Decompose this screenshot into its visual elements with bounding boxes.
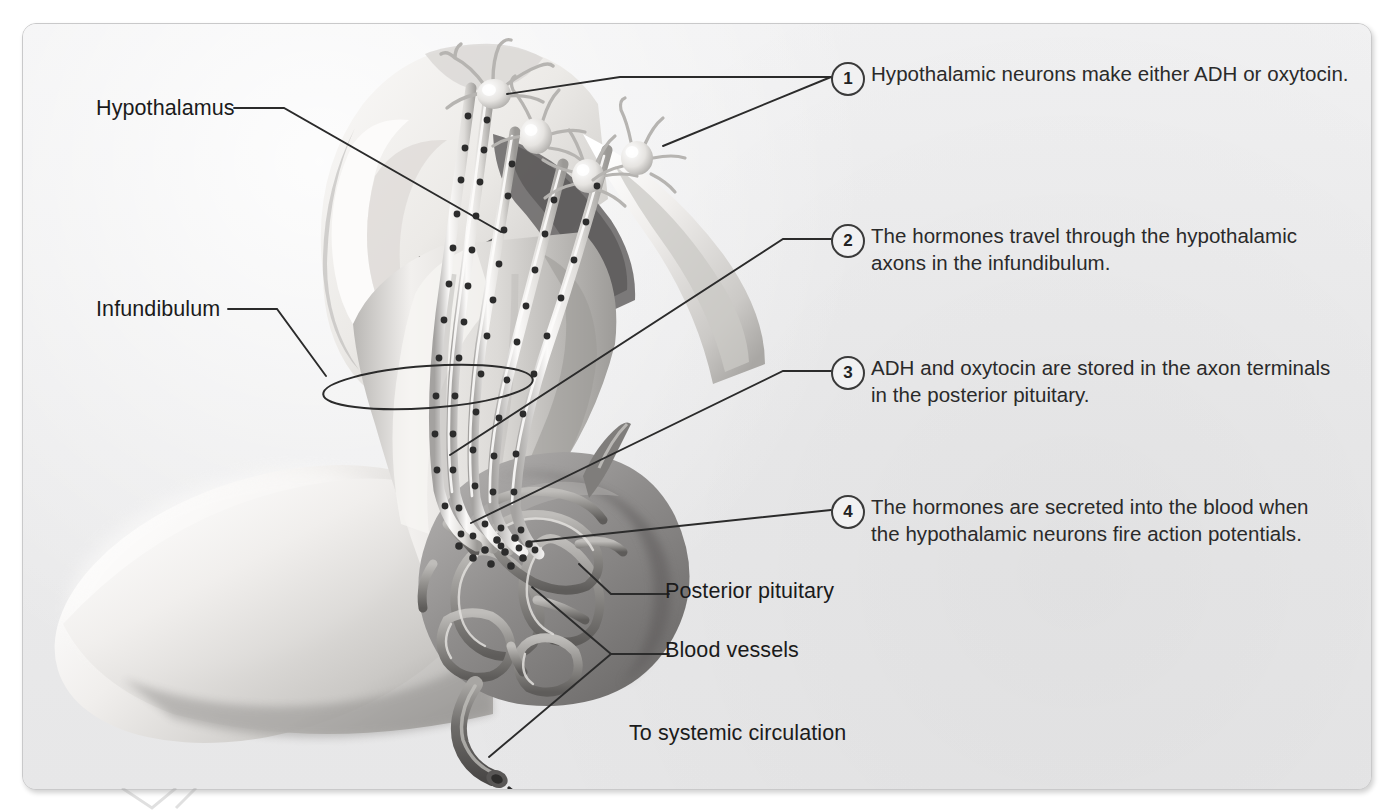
step-text-3: ADH and oxytocin are stored in the axon …	[871, 354, 1330, 408]
figure-canvas: Hypothalamus Infundibulum Posterior pitu…	[0, 0, 1397, 810]
leader-step1-b	[663, 77, 831, 146]
step-text-1: Hypothalamic neurons make either ADH or …	[871, 60, 1349, 87]
step-number-1: 1	[831, 62, 865, 96]
anatomy-label-blood-vessels: Blood vessels	[665, 638, 799, 663]
anatomy-label-hypothalamus: Hypothalamus	[96, 96, 235, 121]
systemic-arrow-shaft	[509, 788, 611, 789]
step-number-3: 3	[831, 356, 865, 390]
figure-panel: Hypothalamus Infundibulum Posterior pitu…	[22, 23, 1372, 790]
step-number-2: 2	[831, 224, 865, 258]
step-text-2: The hormones travel through the hypothal…	[871, 222, 1297, 276]
leader-infundibulum	[228, 309, 326, 376]
anatomy-label-posterior-pituitary: Posterior pituitary	[665, 579, 834, 604]
anatomy-label-systemic-circulation: To systemic circulation	[629, 721, 846, 746]
scan-artifact	[118, 788, 238, 810]
step-text-4: The hormones are secreted into the blood…	[871, 493, 1309, 547]
anatomy-label-infundibulum: Infundibulum	[96, 297, 220, 322]
step-number-4: 4	[831, 495, 865, 529]
